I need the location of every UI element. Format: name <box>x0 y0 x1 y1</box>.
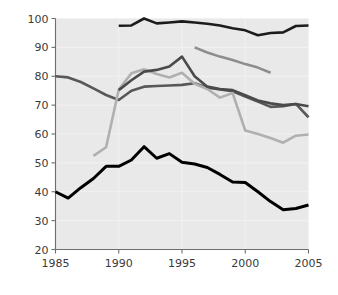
x-tick-label: 2005 <box>295 257 323 270</box>
line-chart: 2030405060708090100 19851990199520002005 <box>0 0 338 295</box>
y-tick-label: 90 <box>35 41 49 54</box>
y-tick-label: 80 <box>35 70 49 83</box>
chart-container: 2030405060708090100 19851990199520002005 <box>0 0 338 295</box>
y-tick-labels: 2030405060708090100 <box>28 13 49 257</box>
y-tick-label: 60 <box>35 128 49 141</box>
y-tick-label: 30 <box>35 215 49 228</box>
x-tick-labels: 19851990199520002005 <box>42 257 323 270</box>
y-tick-label: 70 <box>35 99 49 112</box>
y-tick-label: 50 <box>35 157 49 170</box>
x-tick-label: 1985 <box>42 257 70 270</box>
x-tick-label: 2000 <box>231 257 259 270</box>
y-tick-label: 20 <box>35 244 49 257</box>
y-tick-label: 40 <box>35 186 49 199</box>
x-tick-label: 1995 <box>168 257 196 270</box>
y-tick-label: 100 <box>28 13 49 26</box>
x-tick-label: 1990 <box>105 257 133 270</box>
